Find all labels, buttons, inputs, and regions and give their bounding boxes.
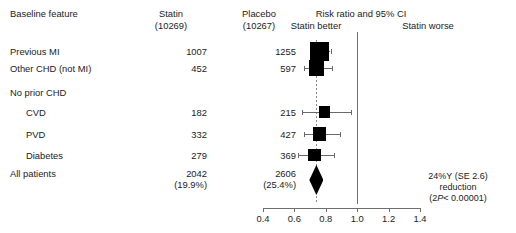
x-axis-tick: [357, 208, 358, 212]
summary-annotation-line1: 24%Y (SE 2.6): [400, 171, 516, 182]
study-square-marker: [319, 106, 330, 117]
ci-cap-lower: [304, 132, 305, 137]
x-axis-tick: [294, 208, 295, 212]
ci-cap-upper: [332, 66, 333, 71]
x-axis-tick-label: 1.2: [376, 214, 402, 224]
ci-cap-lower: [304, 66, 305, 71]
summary-annotation-line2: reduction: [400, 182, 516, 193]
x-axis-tick: [263, 208, 264, 212]
null-effect-line: [357, 32, 358, 204]
ci-cap-lower: [302, 110, 303, 115]
study-square-marker: [308, 149, 321, 162]
forest-plot-figure: Baseline feature Statin (10269) Placebo …: [0, 0, 516, 233]
x-axis-tick-label: 0.6: [281, 214, 307, 224]
ci-cap-upper: [351, 110, 352, 115]
ci-cap-upper: [334, 153, 335, 158]
ci-cap-lower: [298, 153, 299, 158]
summary-diamond-marker: [309, 165, 323, 195]
x-axis-tick-label: 0.4: [250, 214, 276, 224]
study-square-marker: [309, 60, 324, 75]
x-axis-tick-label: 0.8: [313, 214, 339, 224]
x-axis-tick: [420, 208, 421, 212]
x-axis-line: [263, 208, 420, 209]
x-axis-tick-label: 1.4: [407, 214, 433, 224]
ci-cap-upper: [331, 49, 332, 54]
x-axis-tick-label: 1.0: [344, 214, 370, 224]
x-axis-tick: [389, 208, 390, 212]
x-axis-tick: [326, 208, 327, 212]
study-square-marker: [310, 42, 329, 61]
ci-cap-upper: [340, 132, 341, 137]
pvalue-suffix: < 0.00001): [443, 193, 486, 203]
summary-annotation-line3: (2P< 0.00001): [400, 193, 516, 204]
study-square-marker: [313, 127, 327, 141]
